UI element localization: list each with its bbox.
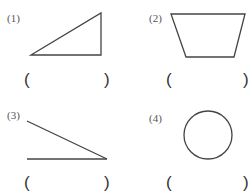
angle-shape [27, 121, 107, 159]
problem-4-label: (4) [149, 112, 162, 124]
problem-3-label: (3) [7, 109, 20, 121]
shapes-canvas [0, 0, 250, 196]
answer-4-open-paren: ( [166, 173, 172, 193]
answer-2-open-paren: ( [166, 70, 172, 90]
answer-3-close-paren: ) [104, 173, 110, 193]
problem-1-label: (1) [7, 12, 20, 24]
answer-4-close-paren: ) [243, 173, 249, 193]
answer-3-open-paren: ( [24, 173, 30, 193]
answer-1-open-paren: ( [24, 70, 30, 90]
answer-1-close-paren: ) [104, 70, 110, 90]
trapezoid-shape [171, 14, 245, 57]
answer-2-close-paren: ) [243, 70, 249, 90]
circle-shape [184, 111, 232, 159]
problem-2-label: (2) [149, 12, 162, 24]
right-triangle-shape [31, 13, 101, 55]
